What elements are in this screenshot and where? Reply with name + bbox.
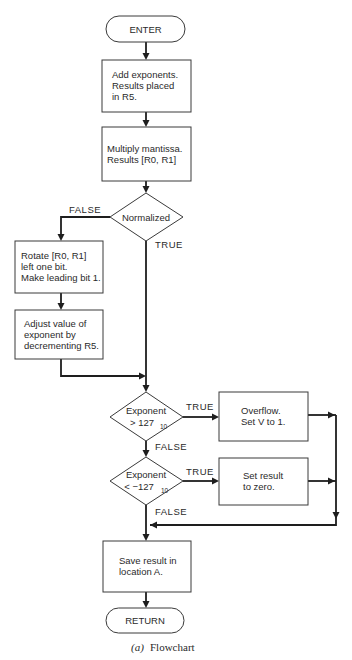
node-setzero-line1: Set result <box>243 470 283 481</box>
node-explt-line1: Exponent <box>126 469 167 480</box>
node-enter-text: ENTER <box>129 24 161 35</box>
label-explt-true: TRUE <box>186 466 214 477</box>
label-normalized-true: TRUE <box>155 239 183 250</box>
node-rotate: Rotate [R0, R1] left one bit. Make leadi… <box>15 241 103 293</box>
node-rotate-line1: Rotate [R0, R1] <box>21 250 86 261</box>
node-explt-subscript: 10 <box>161 487 169 494</box>
node-expgt-line1: Exponent <box>126 405 167 416</box>
node-adjust-line3: decrementing R5. <box>24 340 99 351</box>
label-explt-false: FALSE <box>155 506 187 517</box>
node-save-line1: Save result in <box>119 555 177 566</box>
arrow-head-icon <box>143 53 150 60</box>
node-explt-line2: < −127 <box>124 481 154 492</box>
node-normalized-text: Normalized <box>122 212 170 223</box>
arrow-head-icon <box>212 414 219 421</box>
edge-adjust-merge <box>61 359 142 376</box>
node-set-zero: Set result to zero. <box>219 458 308 505</box>
node-overflow-line1: Overflow. <box>241 405 281 416</box>
arrow-head-icon <box>143 601 150 608</box>
node-adjust-line1: Adjust value of <box>24 318 87 329</box>
node-enter: ENTER <box>106 16 185 42</box>
node-overflow-line2: Set V to 1. <box>241 416 285 427</box>
label-normalized-false: FALSE <box>69 204 101 215</box>
node-rotate-line3: Make leading bit 1. <box>21 272 101 283</box>
node-overflow: Overflow. Set V to 1. <box>219 392 308 441</box>
arrow-head-icon <box>333 512 340 519</box>
figure-caption: (a) Flowchart <box>131 641 195 654</box>
node-exp-gt: Exponent > 127 10 <box>110 392 183 441</box>
arrow-head-icon <box>328 412 335 419</box>
node-return: RETURN <box>106 608 184 633</box>
flowchart-canvas: ENTER Add exponents. Results placed in R… <box>0 0 352 660</box>
node-adjust: Adjust value of exponent by decrementing… <box>15 310 103 359</box>
node-add-exponents: Add exponents. Results placed in R5. <box>102 60 191 112</box>
node-multiply-line2: Results [R0, R1] <box>107 154 176 165</box>
node-multiply-line1: Multiply mantissa. <box>107 143 183 154</box>
node-add-line1: Add exponents. <box>112 69 178 80</box>
node-add-line3: in R5. <box>112 91 137 102</box>
arrow-head-icon <box>143 450 150 457</box>
node-normalized: Normalized <box>110 193 183 241</box>
caption-label: Flowchart <box>150 641 195 653</box>
node-save-line2: location A. <box>119 566 163 577</box>
edge-normalized-false <box>61 217 110 237</box>
node-setzero-line2: to zero. <box>243 481 275 492</box>
arrow-head-icon <box>212 478 219 485</box>
arrow-head-icon <box>143 534 150 541</box>
node-exp-lt: Exponent < −127 10 <box>110 457 183 505</box>
node-adjust-line2: exponent by <box>24 329 76 340</box>
arrow-head-icon <box>328 478 335 485</box>
arrow-head-icon <box>139 373 146 380</box>
node-expgt-line2: > 127 <box>130 417 154 428</box>
node-rotate-line2: left one bit. <box>21 261 67 272</box>
label-expgt-false: FALSE <box>155 441 187 452</box>
node-save: Save result in location A. <box>103 541 191 592</box>
arrow-head-icon <box>150 522 157 529</box>
arrow-head-icon <box>143 385 150 392</box>
arrow-head-icon <box>58 303 65 310</box>
node-expgt-subscript: 10 <box>160 423 168 430</box>
arrow-head-icon <box>143 186 150 193</box>
arrow-head-icon <box>143 120 150 127</box>
caption-prefix: (a) <box>131 641 144 654</box>
label-expgt-true: TRUE <box>186 401 214 412</box>
node-multiply-mantissa: Multiply mantissa. Results [R0, R1] <box>102 127 191 181</box>
node-add-line2: Results placed <box>112 80 174 91</box>
node-return-text: RETURN <box>125 615 165 626</box>
arrow-head-icon <box>58 234 65 241</box>
